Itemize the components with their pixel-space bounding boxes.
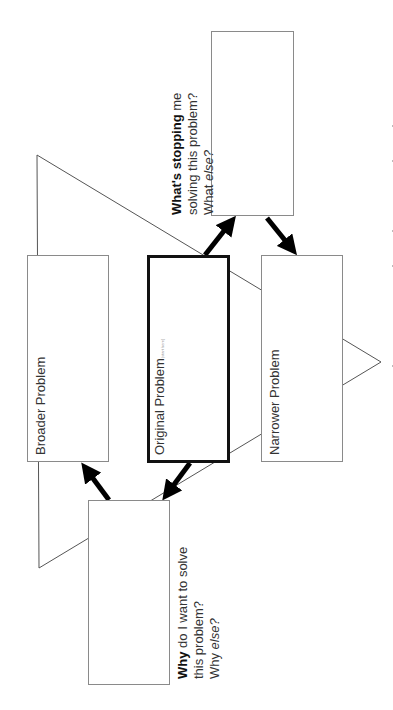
- arrow-stopping-to-narrower: [267, 218, 292, 249]
- original-problem-text: Original Problem: [152, 358, 167, 455]
- arrow-original-to-stopping: [205, 222, 231, 255]
- stopping-line1: me: [169, 93, 184, 115]
- why-bold: Why: [175, 652, 190, 679]
- arrow-original-to-why: [167, 463, 190, 494]
- why-line2: this problem?: [191, 547, 207, 679]
- narrower-problem-label: Narrower Problem: [267, 350, 282, 455]
- original-problem-label: Original Problem(start here): [152, 339, 167, 455]
- why-box[interactable]: [88, 500, 170, 685]
- arrow-why-to-broader: [86, 469, 109, 500]
- why-else: else?: [207, 618, 222, 649]
- broader-problem-label: Broader Problem: [33, 357, 48, 455]
- start-here-note: (start here): [160, 339, 165, 359]
- stopping-bold: What's stopping: [169, 114, 184, 215]
- stopping-line2: solving this problem?: [185, 93, 201, 215]
- why-line1: do I want to solve: [175, 547, 190, 652]
- stopping-else: else?: [201, 150, 216, 181]
- stopping-prompt: What's stopping me solving this problem?…: [169, 93, 217, 215]
- stopping-box[interactable]: [211, 31, 294, 216]
- why-prompt: Why do I want to solve this problem? Why…: [175, 547, 223, 679]
- stopping-line3: What: [201, 181, 216, 215]
- why-line3: Why: [207, 649, 222, 679]
